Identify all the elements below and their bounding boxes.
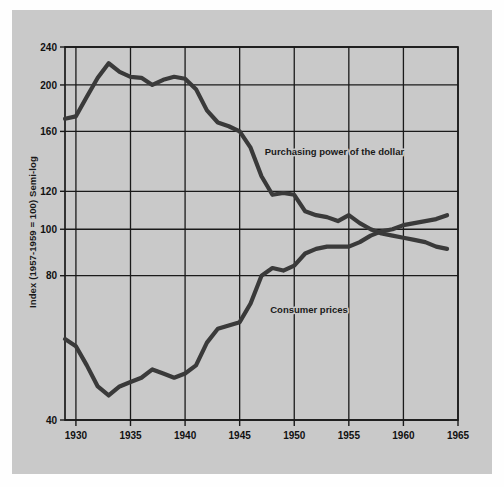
y-tick-label: 40 (46, 415, 58, 426)
line-chart: 4080100120160200240 19301935194019451950… (0, 0, 504, 487)
gridlines (65, 47, 458, 420)
y-tick-label: 160 (40, 126, 57, 137)
y-tick-label: 240 (40, 42, 57, 53)
x-tick-label: 1945 (229, 430, 252, 441)
x-tick-label: 1965 (447, 430, 470, 441)
series-line (65, 215, 447, 395)
x-tick-label: 1955 (338, 430, 361, 441)
x-tick-label: 1960 (392, 430, 415, 441)
y-tick-label: 120 (40, 186, 57, 197)
x-tick-label: 1930 (65, 430, 88, 441)
x-tick-label: 1940 (174, 430, 197, 441)
series-annotation: Purchasing power of the dollar (265, 146, 405, 157)
x-axis-tick-labels: 19301935194019451950195519601965 (65, 430, 470, 441)
x-tick-label: 1950 (283, 430, 306, 441)
chart-page: 4080100120160200240 19301935194019451950… (0, 0, 504, 487)
y-tick-label: 200 (40, 80, 57, 91)
series-annotation: Consumer prices (270, 304, 348, 315)
y-axis-title: Index (1957-1959 = 100) Semi-log (27, 156, 38, 308)
y-axis-tick-labels: 4080100120160200240 (40, 42, 57, 426)
y-tick-label: 100 (40, 224, 57, 235)
x-tick-label: 1935 (119, 430, 142, 441)
chart-plot-area: 4080100120160200240 19301935194019451950… (0, 0, 504, 487)
y-tick-label: 80 (46, 270, 58, 281)
